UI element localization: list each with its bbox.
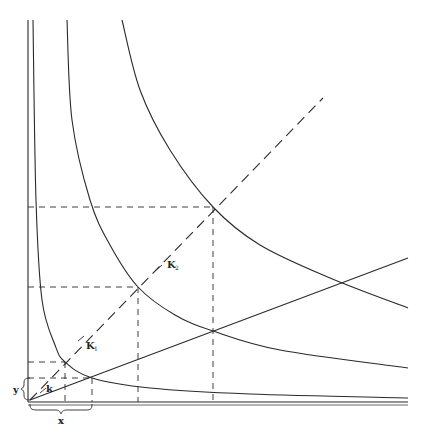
y-brace bbox=[21, 378, 30, 400]
diagram-canvas: k K 1 K 2 y x bbox=[0, 0, 427, 437]
label-x: x bbox=[58, 415, 65, 426]
indifference-curve-outer bbox=[122, 20, 408, 308]
label-k1-sub: 1 bbox=[94, 345, 98, 352]
solid-ray bbox=[30, 258, 408, 400]
label-k: k bbox=[46, 383, 54, 394]
indifference-curve-middle bbox=[67, 20, 408, 368]
label-k2-sub: 2 bbox=[175, 264, 179, 271]
x-brace bbox=[30, 404, 92, 414]
label-y: y bbox=[12, 384, 20, 395]
dashed-expansion-ray bbox=[30, 98, 323, 400]
